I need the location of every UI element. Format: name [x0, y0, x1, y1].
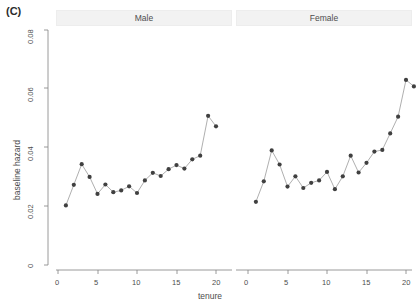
data-point [293, 174, 297, 178]
data-point [262, 179, 266, 183]
data-point [349, 154, 353, 158]
data-point [95, 192, 99, 196]
data-point [182, 167, 186, 171]
data-point [174, 163, 178, 167]
data-point [412, 84, 416, 88]
data-point [167, 167, 171, 171]
series-male-line [64, 114, 218, 208]
data-point [357, 170, 361, 174]
data-point [64, 203, 68, 207]
data-point [380, 148, 384, 152]
plot-area [0, 0, 418, 307]
data-point [396, 115, 400, 119]
data-point [88, 175, 92, 179]
data-point [72, 183, 76, 187]
data-point [333, 187, 337, 191]
data-point [159, 174, 163, 178]
axis-lines [44, 30, 412, 274]
data-point [404, 78, 408, 82]
data-point [309, 181, 313, 185]
data-point [270, 148, 274, 152]
data-point [301, 186, 305, 190]
data-point [111, 190, 115, 194]
data-point [80, 162, 84, 166]
data-point [143, 178, 147, 182]
data-point [190, 157, 194, 161]
data-point [388, 131, 392, 135]
data-point [214, 124, 218, 128]
data-point [151, 171, 155, 175]
series-female-line [254, 78, 416, 204]
data-point [198, 154, 202, 158]
data-point [372, 150, 376, 154]
data-point [254, 200, 258, 204]
data-point [285, 185, 289, 189]
data-point [278, 162, 282, 166]
data-point [119, 188, 123, 192]
data-point [206, 114, 210, 118]
data-point [325, 170, 329, 174]
figure-canvas: (C) Male Female baseline hazard tenure 0… [0, 0, 418, 307]
data-line [256, 80, 414, 202]
data-point [341, 174, 345, 178]
data-point [103, 182, 107, 186]
data-point [127, 184, 131, 188]
data-point [135, 191, 139, 195]
data-point [364, 161, 368, 165]
data-point [317, 178, 321, 182]
